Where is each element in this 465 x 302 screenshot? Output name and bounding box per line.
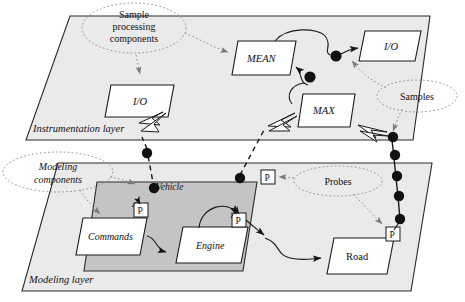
group-vehicle-label: Vehicle xyxy=(156,182,183,192)
node-io-left-label: I/O xyxy=(132,96,147,107)
node-max-label: MAX xyxy=(312,105,335,116)
probe-engine-label: P xyxy=(236,216,241,226)
node-io-left[interactable]: I/O xyxy=(105,85,174,117)
callout-probes-label: Probes xyxy=(324,176,351,187)
node-mean-label: MEAN xyxy=(246,53,277,64)
node-commands-label: Commands xyxy=(88,231,133,242)
callout-modeling-components-line-2: components xyxy=(34,174,82,185)
probe-road[interactable]: P xyxy=(386,227,400,241)
sample-dot xyxy=(142,148,152,158)
callout-modeling-components-line-1: Modeling xyxy=(38,161,77,172)
diagram-canvas: Instrumentation layer Modeling layer Veh… xyxy=(0,0,465,302)
instrumentation-layer-label: Instrumentation layer xyxy=(32,123,125,134)
architecture-diagram: Instrumentation layer Modeling layer Veh… xyxy=(0,0,465,302)
sample-dot xyxy=(390,150,400,160)
probe-vehicle-top[interactable]: P xyxy=(261,170,275,184)
sample-dot xyxy=(330,50,341,61)
probe-commands[interactable]: P xyxy=(134,203,148,217)
node-engine[interactable]: Engine xyxy=(176,227,248,263)
node-io-right-label: I/O xyxy=(383,41,398,52)
callout-sample-processing-line-3: components xyxy=(110,33,158,44)
probe-engine[interactable]: P xyxy=(232,213,246,227)
node-engine-label: Engine xyxy=(195,240,225,251)
sample-dot xyxy=(235,173,245,183)
node-mean[interactable]: MEAN xyxy=(232,41,296,75)
probe-commands-label: P xyxy=(138,206,143,216)
modeling-layer-label: Modeling layer xyxy=(28,274,94,285)
probe-vehicle-top-label: P xyxy=(265,173,270,183)
sample-dot xyxy=(394,191,404,201)
node-road-label: Road xyxy=(346,251,369,262)
node-max[interactable]: MAX xyxy=(298,94,355,127)
callout-sample-processing-line-2: processing xyxy=(113,21,156,32)
sample-dot xyxy=(388,132,398,142)
callout-sample-processing-line-1: Sample xyxy=(119,9,150,20)
sample-dot xyxy=(392,171,402,181)
node-io-right[interactable]: I/O xyxy=(359,31,421,61)
probe-road-label: P xyxy=(390,230,395,240)
node-road[interactable]: Road xyxy=(327,238,394,274)
sample-dot xyxy=(304,71,315,82)
sample-dot xyxy=(149,183,159,193)
sample-dot xyxy=(395,214,405,224)
callout-samples-label: Samples xyxy=(400,91,434,102)
node-commands[interactable]: Commands xyxy=(76,218,147,255)
